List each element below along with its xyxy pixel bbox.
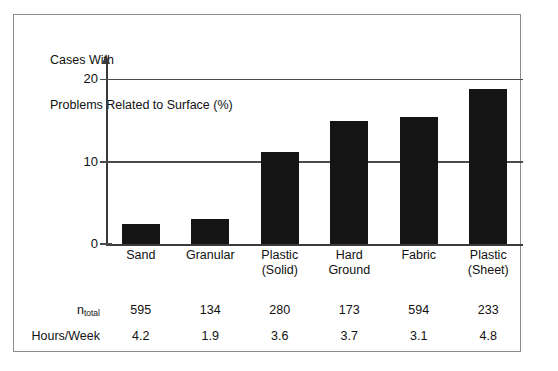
x-label-hard-ground: Hard Ground (315, 248, 385, 278)
y-tick-mark-0 (100, 243, 112, 245)
gridline-10 (100, 161, 523, 163)
table-cell: 4.2 (106, 329, 176, 343)
figure-frame: Cases With Problems Related to Surface (… (13, 14, 521, 352)
table-cell: 134 (176, 303, 246, 317)
x-axis-line (106, 244, 523, 246)
table-row: Hours/Week4.21.93.63.73.14.8 (14, 329, 522, 353)
plot-area: 01020 (106, 63, 523, 244)
y-tick-label-20: 20 (84, 72, 98, 87)
table-cell: 1.9 (176, 329, 246, 343)
table-cell: 594 (384, 303, 454, 317)
y-tick-mark-10 (100, 161, 112, 163)
x-label-plastic-sheet: Plastic (Sheet) (454, 248, 524, 278)
table-row-label-subscript: total (84, 308, 100, 318)
table-row-label: ntotal (14, 303, 100, 317)
table-cell: 280 (245, 303, 315, 317)
bar-granular (191, 219, 229, 245)
table-cell: 233 (454, 303, 524, 317)
table-row-label: Hours/Week (14, 329, 100, 343)
y-tick-mark-20 (100, 79, 112, 81)
y-axis-line (106, 63, 108, 244)
table-cell: 3.6 (245, 329, 315, 343)
x-label-fabric: Fabric (384, 248, 454, 263)
table-cell: 3.1 (384, 329, 454, 343)
bar-plastic-sheet (469, 89, 507, 244)
data-table: ntotal595134280173594233Hours/Week4.21.9… (14, 303, 522, 351)
y-tick-label-10: 10 (84, 154, 98, 169)
table-cell: 595 (106, 303, 176, 317)
x-axis-labels: SandGranularPlastic (Solid)Hard GroundFa… (106, 248, 523, 282)
table-cell: 3.7 (315, 329, 385, 343)
x-label-sand: Sand (106, 248, 176, 263)
table-cell: 173 (315, 303, 385, 317)
table-row: ntotal595134280173594233 (14, 303, 522, 327)
x-label-granular: Granular (176, 248, 246, 263)
bar-fabric (400, 117, 438, 244)
x-label-plastic-solid: Plastic (Solid) (245, 248, 315, 278)
bar-plastic-solid (261, 152, 299, 244)
table-cell: 4.8 (454, 329, 524, 343)
bar-hard-ground (330, 121, 368, 244)
y-tick-label-0: 0 (91, 236, 98, 251)
y-axis-arrow-icon (102, 54, 110, 64)
bar-sand (122, 224, 160, 244)
gridline-20 (100, 79, 523, 81)
